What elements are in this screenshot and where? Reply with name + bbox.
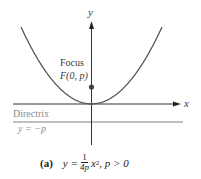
focus-label: Focus [60, 57, 84, 68]
x-axis-label: x [184, 97, 189, 109]
directrix-equation: y = −p [18, 123, 46, 134]
caption-tag: (a) [40, 157, 53, 169]
caption-condition: , p > 0 [99, 157, 128, 169]
caption-fraction: 1 4p [80, 153, 89, 172]
fraction-denominator: 4p [80, 163, 89, 172]
focus-point [89, 84, 94, 89]
caption-lhs: y = [63, 157, 78, 169]
y-axis-label: y [88, 6, 93, 18]
y-axis-arrow-icon [89, 21, 94, 29]
x-axis-arrow-icon [173, 102, 181, 107]
directrix-label: Directrix [13, 108, 49, 119]
figure-caption: (a) y = 1 4p x2 , p > 0 [40, 153, 129, 172]
focus-coordinate: F(0, p) [60, 70, 88, 81]
